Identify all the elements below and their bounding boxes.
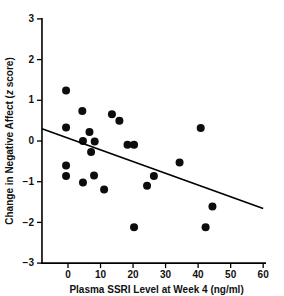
y-axis-title-tail: score)	[4, 57, 15, 90]
data-point	[143, 182, 151, 190]
x-tick-label: 60	[258, 269, 270, 280]
data-point	[100, 185, 108, 193]
data-point	[108, 110, 116, 118]
x-tick-label: 20	[127, 269, 139, 280]
x-axis-ticks: 0102030405060	[65, 263, 269, 280]
scatter-plot-figure: 3210−1−2−3 0102030405060 Plasma SSRI Lev…	[0, 0, 284, 296]
data-point	[62, 87, 70, 95]
y-tick-label: −2	[23, 217, 35, 228]
data-point	[115, 117, 123, 125]
data-points	[62, 87, 216, 232]
data-point	[91, 137, 99, 145]
x-axis-title: Plasma SSRI Level at Week 4 (ng/ml)	[69, 284, 243, 295]
y-tick-label: 3	[28, 13, 34, 24]
x-tick-label: 40	[193, 269, 205, 280]
data-point	[130, 223, 138, 231]
y-axis-title: Change in Negative Affect (z score)	[4, 57, 15, 224]
data-point	[176, 159, 184, 167]
data-point	[78, 107, 86, 115]
y-axis-ticks: 3210−1−2−3	[23, 13, 42, 268]
data-point	[90, 172, 98, 180]
trend-line	[42, 129, 263, 209]
data-point	[85, 128, 93, 136]
x-tick-label: 10	[95, 269, 107, 280]
data-point	[202, 223, 210, 231]
y-tick-label: 1	[28, 94, 34, 105]
data-point	[62, 124, 70, 132]
data-point	[150, 172, 158, 180]
x-tick-label: 30	[160, 269, 172, 280]
data-point	[208, 203, 216, 211]
data-point	[62, 161, 70, 169]
plot-canvas: 3210−1−2−3 0102030405060 Plasma SSRI Lev…	[0, 0, 284, 296]
data-point	[197, 124, 205, 132]
data-point	[62, 172, 70, 180]
y-tick-label: 0	[28, 135, 34, 146]
data-point	[79, 179, 87, 187]
x-tick-label: 50	[225, 269, 237, 280]
data-point	[87, 148, 95, 156]
x-tick-label: 0	[65, 269, 71, 280]
y-tick-label: −3	[23, 257, 35, 268]
y-tick-label: −1	[23, 176, 35, 187]
data-point	[130, 141, 138, 149]
y-tick-label: 2	[28, 54, 34, 65]
y-axis-title-main: Change in Negative Affect (	[4, 94, 15, 224]
